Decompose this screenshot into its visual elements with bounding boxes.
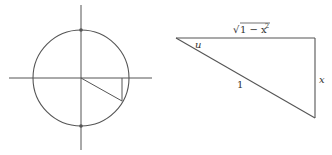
right-triangle-figure: u 1 x √ 1 − x 2 xyxy=(176,22,325,118)
radical-exponent: 2 xyxy=(265,22,269,30)
hypotenuse xyxy=(176,38,315,118)
top-point xyxy=(79,28,83,32)
radical-sign: √ xyxy=(233,24,240,35)
unit-circle-figure xyxy=(9,5,152,150)
diagram-canvas: u 1 x √ 1 − x 2 xyxy=(0,0,332,155)
radius-line xyxy=(81,78,122,101)
radical-body: 1 − x xyxy=(240,24,267,35)
opposite-label: x xyxy=(319,74,325,85)
hypotenuse-label: 1 xyxy=(237,79,243,90)
angle-label: u xyxy=(195,39,201,50)
bottom-point xyxy=(79,124,83,128)
adjacent-label: √ 1 − x 2 xyxy=(233,22,270,35)
